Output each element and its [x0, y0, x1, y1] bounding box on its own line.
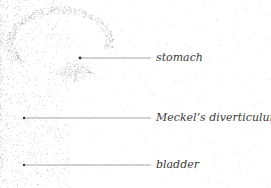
stipple-illustration	[0, 0, 271, 188]
label-bladder: bladder	[156, 159, 199, 171]
label-stomach: stomach	[156, 52, 203, 64]
label-meckels-diverticulum: Meckel’s diverticulum	[156, 112, 271, 124]
leader-meckels-diverticulum	[23, 117, 151, 119]
stipple-dots	[0, 0, 270, 188]
leader-stomach	[79, 57, 151, 60]
leader-bladder	[23, 164, 151, 166]
